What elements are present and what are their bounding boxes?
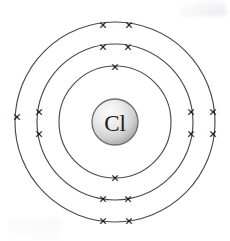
electron-2-right-upper: × <box>187 104 196 120</box>
electron-3-bottom-left: × <box>99 213 108 229</box>
electron-3-left: × <box>13 109 22 125</box>
nucleus-element-symbol: Cl <box>104 111 126 136</box>
electron-1-bottom: × <box>111 170 120 186</box>
electron-2-top-left: × <box>99 39 108 55</box>
electron-2-bottom-left: × <box>99 191 108 207</box>
electron-3-bottom-right: × <box>125 213 134 229</box>
electron-2-right-lower: × <box>187 126 196 142</box>
electron-2-left-upper: × <box>35 104 44 120</box>
electron-3-right-upper: × <box>209 104 218 120</box>
atom-diagram-canvas: Cl ××××××××××××××××× <box>0 0 230 241</box>
electron-3-right-lower: × <box>209 126 218 142</box>
electron-2-bottom-right: × <box>124 191 133 207</box>
electron-1-top: × <box>111 59 120 75</box>
electron-2-top-right: × <box>124 39 133 55</box>
nucleus: Cl <box>92 99 138 145</box>
electron-2-left-lower: × <box>35 126 44 142</box>
bohr-model-diagram: Cl ××××××××××××××××× <box>0 0 230 241</box>
electron-3-top-right: × <box>125 17 134 33</box>
electron-3-top-left: × <box>99 17 108 33</box>
